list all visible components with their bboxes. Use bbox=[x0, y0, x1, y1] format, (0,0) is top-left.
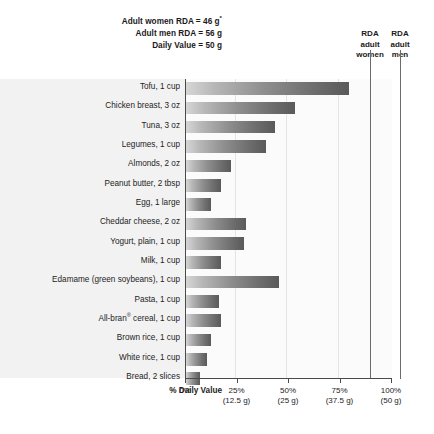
protein-daily-value-bar-chart: Adult women RDA = 46 g* Adult men RDA = … bbox=[0, 0, 434, 434]
tick-mark-0 bbox=[185, 378, 186, 383]
chart-row: Chicken breast, 3 oz bbox=[0, 98, 392, 117]
row-label: Cheddar cheese, 2 oz bbox=[100, 217, 180, 227]
tick-label-grams: (12.5 g) bbox=[209, 396, 265, 406]
row-label: Almonds, 2 oz bbox=[128, 159, 180, 169]
rda-men-line1: RDA bbox=[377, 29, 423, 40]
chart-row: Almonds, 2 oz bbox=[0, 156, 392, 175]
bar bbox=[186, 353, 207, 366]
row-label: Milk, 1 cup bbox=[141, 256, 180, 266]
bar-track bbox=[186, 295, 219, 308]
chart-row: All-bran® cereal, 1 cup bbox=[0, 311, 392, 330]
chart-rows: Tofu, 1 cupChicken breast, 3 ozTuna, 3 o… bbox=[0, 79, 392, 369]
chart-row: Peanut butter, 2 tbsp bbox=[0, 176, 392, 195]
bar-track bbox=[186, 179, 221, 192]
chart-row: Cheddar cheese, 2 oz bbox=[0, 214, 392, 233]
bar-track bbox=[186, 276, 279, 289]
chart-row: White rice, 1 cup bbox=[0, 350, 392, 369]
bar bbox=[186, 82, 349, 95]
bar bbox=[186, 218, 246, 231]
note-women-rda: Adult women RDA = 46 g* bbox=[0, 16, 222, 28]
rda-annotations: Adult women RDA = 46 g* Adult men RDA = … bbox=[0, 16, 222, 53]
tick-label-percent: 100% bbox=[381, 386, 401, 395]
tick-mark-50 bbox=[288, 378, 289, 383]
row-label: Peanut butter, 2 tbsp bbox=[104, 179, 180, 189]
bar bbox=[186, 121, 275, 134]
bar-track bbox=[186, 102, 295, 115]
bar-track bbox=[186, 314, 221, 327]
bar-track bbox=[186, 198, 211, 211]
bar-track bbox=[186, 353, 207, 366]
chart-row: Legumes, 1 cup bbox=[0, 137, 392, 156]
tick-label-percent: 75% bbox=[331, 386, 347, 395]
row-label: Egg, 1 large bbox=[136, 198, 180, 208]
row-label-tail: cereal, 1 cup bbox=[131, 314, 180, 323]
row-label: Pasta, 1 cup bbox=[134, 295, 180, 305]
chart-row: Yogurt, plain, 1 cup bbox=[0, 234, 392, 253]
note-daily-value: Daily Value = 50 g bbox=[0, 40, 222, 52]
bar bbox=[186, 198, 211, 211]
bar bbox=[186, 102, 295, 115]
row-label: Tofu, 1 cup bbox=[140, 82, 180, 92]
row-label: Bread, 2 slices bbox=[126, 372, 180, 382]
chart-row: Tofu, 1 cup bbox=[0, 79, 392, 98]
rda-men-reference-line bbox=[400, 50, 401, 379]
row-label: Legumes, 1 cup bbox=[122, 140, 180, 150]
row-label: All-bran® cereal, 1 cup bbox=[99, 314, 181, 324]
row-label: Chicken breast, 3 oz bbox=[105, 101, 180, 111]
bar bbox=[186, 140, 266, 153]
chart-row: Milk, 1 cup bbox=[0, 253, 392, 272]
tick-label-grams: (37.5 g) bbox=[312, 396, 368, 406]
chart-row: Pasta, 1 cup bbox=[0, 292, 392, 311]
row-label: Brown rice, 1 cup bbox=[117, 333, 180, 343]
bar-track bbox=[186, 121, 275, 134]
note-women-rda-text: Adult women RDA = 46 g bbox=[122, 17, 220, 26]
bar bbox=[186, 314, 221, 327]
row-label: Edamame (green soybeans), 1 cup bbox=[52, 275, 180, 285]
bar bbox=[186, 179, 221, 192]
tick-label-grams: (25 g) bbox=[260, 396, 316, 406]
bar bbox=[186, 237, 244, 250]
bar bbox=[186, 295, 219, 308]
tick-label-percent: 25% bbox=[228, 386, 244, 395]
tick-mark-75 bbox=[340, 378, 341, 383]
bar bbox=[186, 256, 221, 269]
bar-track bbox=[186, 256, 221, 269]
bar bbox=[186, 334, 211, 347]
chart-row: Egg, 1 large bbox=[0, 195, 392, 214]
bar-track bbox=[186, 160, 231, 173]
tick-label: 75%(37.5 g) bbox=[312, 386, 368, 407]
bar-track bbox=[186, 218, 246, 231]
tick-mark-100 bbox=[391, 378, 392, 383]
bar bbox=[186, 276, 279, 289]
tick-mark-25 bbox=[237, 378, 238, 383]
chart-row: Tuna, 3 oz bbox=[0, 118, 392, 137]
bar-track bbox=[186, 82, 349, 95]
row-label: White rice, 1 cup bbox=[119, 353, 180, 363]
bar-track bbox=[186, 237, 244, 250]
chart-row: Brown rice, 1 cup bbox=[0, 330, 392, 349]
row-label-text: All-bran bbox=[99, 314, 127, 323]
note-men-rda: Adult men RDA = 56 g bbox=[0, 28, 222, 40]
tick-label-grams: (50 g) bbox=[363, 396, 419, 406]
x-axis-caption: % Daily Value bbox=[169, 386, 222, 395]
asterisk-marker: * bbox=[220, 15, 222, 21]
row-label: Tuna, 3 oz bbox=[142, 121, 180, 131]
tick-label: 100%(50 g) bbox=[363, 386, 419, 407]
bar bbox=[186, 160, 231, 173]
bar-track bbox=[186, 334, 211, 347]
bar-track bbox=[186, 140, 266, 153]
chart-row: Edamame (green soybeans), 1 cup bbox=[0, 272, 392, 291]
rda-men-line2: adult bbox=[377, 40, 423, 51]
tick-label: 50%(25 g) bbox=[260, 386, 316, 407]
row-label: Yogurt, plain, 1 cup bbox=[110, 237, 180, 247]
tick-label-percent: 50% bbox=[280, 386, 296, 395]
